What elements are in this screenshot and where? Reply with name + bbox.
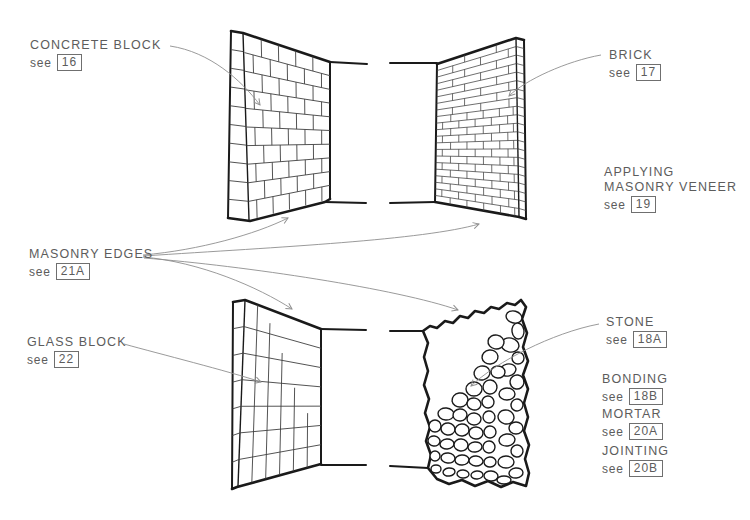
- see-reference: see 17: [609, 64, 661, 81]
- label-title: JOINTING: [602, 444, 669, 459]
- see-word: see: [30, 56, 52, 70]
- label-stone: STONE see 18A: [606, 315, 667, 348]
- label-title: MORTAR: [602, 407, 663, 422]
- label-title: GLASS BLOCK: [27, 335, 127, 350]
- leader-masonry-edges-concrete: [143, 218, 288, 255]
- label-concrete-block: CONCRETE BLOCK see 16: [30, 38, 161, 71]
- see-word: see: [29, 265, 51, 279]
- label-jointing: JOINTING see 20B: [602, 444, 669, 477]
- see-reference: see 21A: [29, 263, 153, 280]
- see-reference: see 20A: [602, 423, 663, 440]
- leader-glass-block: [124, 344, 261, 382]
- see-word: see: [602, 462, 624, 476]
- ref-box-20B: 20B: [629, 460, 663, 477]
- see-reference: see 22: [27, 351, 127, 368]
- see-word: see: [609, 66, 631, 80]
- brick-wall-drawing: [390, 38, 526, 219]
- ref-box-17: 17: [636, 64, 661, 81]
- concrete-block-wall-drawing: [228, 31, 367, 221]
- see-reference: see 16: [30, 54, 161, 71]
- ref-box-21A: 21A: [56, 263, 90, 280]
- label-title: MASONRY EDGES: [29, 247, 153, 262]
- see-word: see: [604, 198, 626, 212]
- see-word: see: [27, 353, 49, 367]
- ref-box-19: 19: [631, 196, 656, 213]
- rubble-stones: [428, 309, 526, 484]
- ref-box-20A: 20A: [629, 423, 663, 440]
- label-title: BONDING: [602, 372, 668, 387]
- see-reference: see 18A: [606, 331, 667, 348]
- ref-box-18B: 18B: [629, 388, 663, 405]
- label-mortar: MORTAR see 20A: [602, 407, 663, 440]
- label-title: APPLYING: [604, 165, 737, 180]
- glass-block-joints: [232, 305, 321, 483]
- stone-wall-drawing: [390, 300, 529, 487]
- ref-box-22: 22: [54, 351, 79, 368]
- label-masonry-edges: MASONRY EDGES see 21A: [29, 247, 153, 280]
- label-title: MASONRY VENEER: [604, 180, 737, 195]
- ref-box-18A: 18A: [633, 331, 667, 348]
- label-applying-masonry-veneer: APPLYING MASONRY VENEER see 19: [604, 165, 737, 213]
- label-glass-block: GLASS BLOCK see 22: [27, 335, 127, 368]
- see-word: see: [602, 425, 624, 439]
- see-word: see: [606, 333, 628, 347]
- label-title: CONCRETE BLOCK: [30, 38, 161, 53]
- see-reference: see 20B: [602, 460, 669, 477]
- masonry-diagram-page: CONCRETE BLOCK see 16 BRICK see 17 APPLY…: [0, 0, 750, 520]
- label-bonding: BONDING see 18B: [602, 372, 668, 405]
- see-reference: see 19: [604, 196, 737, 213]
- leader-concrete-block: [170, 46, 260, 105]
- leader-masonry-edges-brick: [143, 224, 479, 256]
- see-word: see: [602, 390, 624, 404]
- glass-block-wall-drawing: [232, 300, 366, 489]
- leader-brick: [509, 55, 601, 96]
- ref-box-16: 16: [57, 54, 82, 71]
- leader-lines: [124, 46, 601, 386]
- brick-joints: [435, 45, 526, 217]
- see-reference: see 18B: [602, 388, 668, 405]
- label-brick: BRICK see 17: [609, 48, 661, 81]
- label-title: BRICK: [609, 48, 661, 63]
- label-title: STONE: [606, 315, 667, 330]
